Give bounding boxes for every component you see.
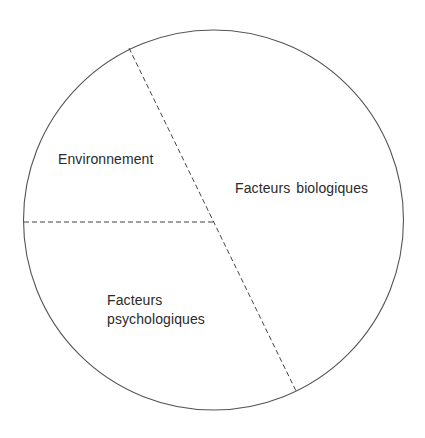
diagram-canvas [0, 0, 425, 438]
segment-label-line-2: psychologiques [107, 310, 205, 329]
factors-diagram: Environnement Facteurs biologiques Facte… [0, 0, 425, 438]
segment-label-line-1: Facteurs [107, 291, 205, 310]
segment-label-environnement: Environnement [58, 150, 153, 169]
outer-circle [24, 30, 404, 410]
diagonal-divider [129, 48, 297, 393]
segment-label-facteurs-biologiques: Facteurs biologiques [235, 179, 368, 198]
segment-label-facteurs-psychologiques: Facteurs psychologiques [107, 291, 205, 329]
